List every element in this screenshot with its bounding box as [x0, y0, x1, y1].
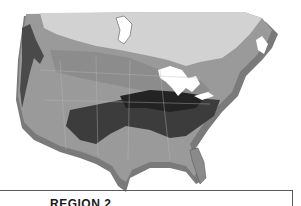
legend-box-top-border [0, 190, 293, 191]
region-map [0, 0, 301, 206]
legend-box-right-border [292, 190, 293, 206]
region-title: REGION 2 [50, 198, 111, 206]
